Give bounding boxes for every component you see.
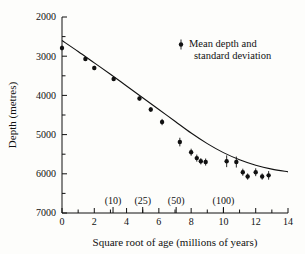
y-tick-label-6000: 6000 [36,168,56,179]
point-marker [137,96,141,100]
age-annotation-label: (10) [105,195,122,207]
x-tick-label-8: 8 [189,216,194,227]
legend-label-line1: Mean depth and [189,38,257,49]
point-marker [178,140,182,144]
y-tick-label-7000: 7000 [36,207,56,218]
x-tick-label-0: 0 [60,216,65,227]
data-point [83,57,87,61]
age-annotation-label: (50) [168,195,185,207]
point-marker [189,150,193,154]
age-annotation-label: (25) [134,195,151,207]
point-marker [60,46,64,50]
legend-point-marker-icon [179,42,183,46]
point-marker [241,170,245,174]
y-tick-label-5000: 5000 [36,129,56,140]
x-tick-label-12: 12 [251,216,261,227]
point-marker [83,57,87,61]
point-marker [224,159,228,163]
x-tick-label-4: 4 [124,216,129,227]
data-point [111,77,115,81]
point-marker [160,120,164,124]
y-tick-label-4000: 4000 [36,90,56,101]
x-tick-label-2: 2 [92,216,97,227]
y-tick-label-3000: 3000 [36,51,56,62]
point-marker [203,160,207,164]
point-marker [266,173,270,177]
point-marker [245,174,249,178]
point-marker [260,174,264,178]
legend-label-line2: standard deviation [194,50,272,61]
depth-vs-age-chart: 20003000400050006000700002468101214(10)(… [0,0,305,254]
y-axis-title: Depth (metres) [6,82,19,149]
point-marker [92,66,96,70]
point-marker [199,159,203,163]
x-tick-label-14: 14 [283,216,293,227]
point-marker [234,160,238,164]
point-marker [195,156,199,160]
chart-canvas: 20003000400050006000700002468101214(10)(… [0,0,305,254]
point-marker [149,107,153,111]
age-annotation-label: (100) [213,195,235,207]
point-marker [254,170,258,174]
x-tick-label-6: 6 [156,216,161,227]
data-point [92,66,96,70]
point-marker [111,77,115,81]
data-point [137,96,141,100]
x-axis-title: Square root of age (millions of years) [93,236,258,249]
x-tick-label-10: 10 [218,216,228,227]
y-tick-label-2000: 2000 [36,11,56,22]
